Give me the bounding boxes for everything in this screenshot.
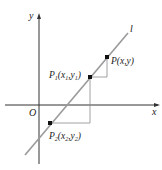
y-axis-arrow [37,13,41,19]
line-label: l [130,23,133,34]
point-p-label: P(x,y) [110,56,134,67]
coordinate-diagram: y x O l P(x,y) P1(x1,y1) P2(x2,y2) [0,0,162,170]
point-p1 [88,75,92,79]
point-p2 [48,121,52,125]
y-axis-label: y [28,10,34,21]
origin-label: O [29,107,36,118]
x-axis-label: x [151,106,157,117]
point-p [105,55,109,59]
point-p1-label: P1(x1,y1) [48,70,81,81]
point-p2-label: P2(x2,y2) [48,131,81,142]
